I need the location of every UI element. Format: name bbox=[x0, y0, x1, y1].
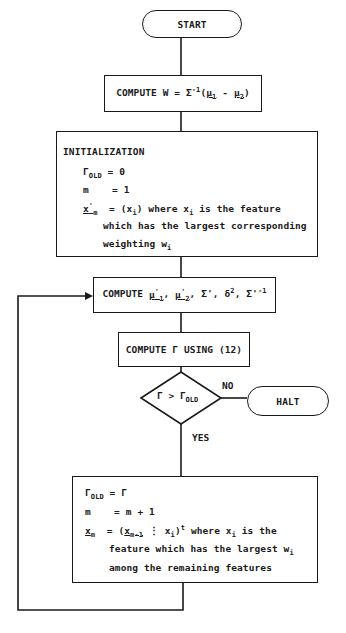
edge-label-yes: YES bbox=[192, 432, 209, 443]
compute-gamma-label: COMPUTE Γ USING (12) bbox=[126, 344, 242, 355]
init-line5: weighting wi bbox=[103, 238, 171, 252]
compute-mu-text: COMPUTE μ'1, μ'2, Σ', δ2, Σ'-1 bbox=[102, 287, 266, 302]
init-xm: x'm = (xi) where xi is the feature bbox=[83, 202, 281, 217]
compute-gamma-box: COMPUTE Γ USING (12) bbox=[118, 332, 250, 367]
decision-condition: Γ > ΓOLD bbox=[157, 390, 198, 404]
update-m: m = m + 1 bbox=[85, 506, 155, 517]
compute-w-box: COMPUTE W = Σ-1(μ1 - μ2) bbox=[104, 75, 262, 112]
halt-label: HALT bbox=[276, 396, 299, 407]
update-gamma-old: ΓOLD = Γ bbox=[85, 487, 127, 501]
initialization-box: INITIALIZATION ΓOLD = 0 m = 1 x'm = (xi)… bbox=[56, 131, 318, 257]
update-line5: among the remaining features bbox=[109, 562, 272, 573]
edge-label-no: NO bbox=[222, 380, 233, 391]
update-xm: xm = (xm-1 ⋮ xi)t where xi is the bbox=[85, 524, 277, 539]
start-terminal: START bbox=[142, 10, 242, 38]
init-gamma-old: ΓOLD = 0 bbox=[83, 166, 125, 180]
halt-terminal: HALT bbox=[247, 386, 329, 416]
init-line4: which has the largest corresponding bbox=[103, 220, 307, 231]
initialization-title: INITIALIZATION bbox=[63, 146, 144, 157]
compute-mu-box: COMPUTE μ'1, μ'2, Σ', δ2, Σ'-1 bbox=[93, 277, 276, 313]
start-label: START bbox=[177, 19, 206, 30]
init-m: m = 1 bbox=[83, 184, 130, 195]
update-line4: feature which has the largest wi bbox=[109, 543, 294, 557]
compute-w-text: COMPUTE W = Σ-1(μ1 - μ2) bbox=[116, 86, 250, 101]
update-box: ΓOLD = Γ m = m + 1 xm = (xm-1 ⋮ xi)t whe… bbox=[72, 476, 318, 583]
